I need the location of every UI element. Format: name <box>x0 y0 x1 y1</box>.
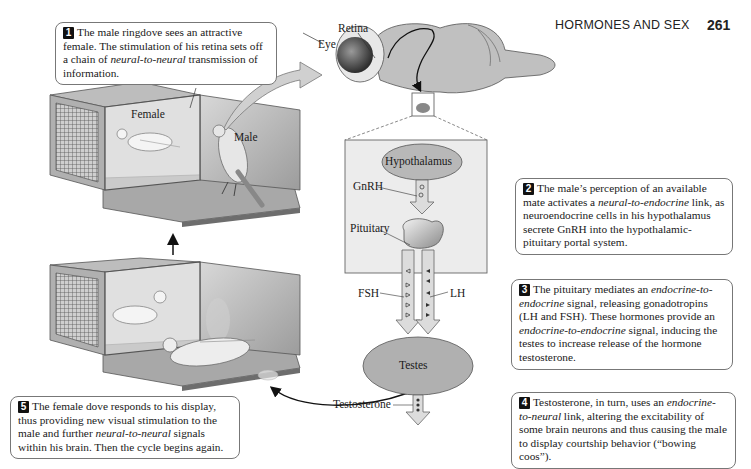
callout-5: 5The female dove responds to his display… <box>10 396 240 459</box>
step-number-badge: 3 <box>519 284 530 296</box>
label-pituitary: Pituitary <box>350 222 390 234</box>
step-number-badge: 2 <box>523 183 534 195</box>
label-hypothalamus: Hypothalamus <box>385 155 452 167</box>
callout-3: 3The pituitary mediates an endocrine-to-… <box>511 279 733 370</box>
step-number-badge: 5 <box>18 401 29 413</box>
lower-cage <box>50 258 300 391</box>
callout-4: 4Testosterone, in turn, uses an endocrin… <box>511 392 736 469</box>
upper-cage <box>50 82 300 227</box>
label-gnrh: GnRH <box>353 180 383 192</box>
step-number-badge: 4 <box>519 397 530 409</box>
testosterone-arrow <box>393 395 430 425</box>
callout-1: 1The male ringdove sees an attractive fe… <box>55 22 277 85</box>
label-eye: Eye <box>318 38 336 50</box>
step-number-badge: 1 <box>63 27 74 39</box>
label-female: Female <box>131 108 165 120</box>
label-retina: Retina <box>338 22 368 34</box>
brain <box>303 24 555 140</box>
label-lh: LH <box>450 287 465 299</box>
label-fsh: FSH <box>358 287 379 299</box>
label-testes: Testes <box>399 359 428 371</box>
label-male: Male <box>234 131 258 143</box>
callout-2: 2The male’s perception of an available m… <box>515 178 733 255</box>
label-testosterone: Testosterone <box>333 398 391 410</box>
